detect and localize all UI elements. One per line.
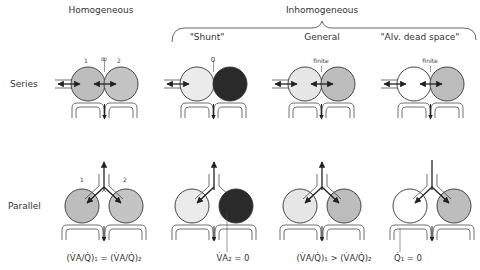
parallel-unit2-label: 2 <box>123 177 127 183</box>
formula-general: (V̇A/Q̇)₁ > (V̇A/Q̇)₂ <box>297 254 372 263</box>
series-shunt <box>164 60 247 119</box>
series-shunt-zero-label: 0 <box>211 57 215 64</box>
formula-shunt: V̇A₂ = 0 <box>217 254 250 263</box>
header-homogeneous: Homogeneous <box>69 6 134 15</box>
series-unit2-label: 2 <box>117 58 121 64</box>
series-alv-dead-space <box>381 66 464 119</box>
header-inhomogeneous: Inhomogeneous <box>286 6 358 15</box>
series-homogeneous <box>55 60 138 119</box>
series-general <box>272 66 355 119</box>
formula-homogeneous: (V̇A/Q̇)₁ = (V̇A/Q̇)₂ <box>67 254 142 263</box>
parallel-alv-dead-space <box>390 160 474 252</box>
row-label-series: Series <box>10 80 38 89</box>
parallel-homogeneous <box>62 162 146 241</box>
parallel-general <box>280 162 364 241</box>
column-label-general: General <box>304 33 339 42</box>
parallel-unit1-label: 1 <box>80 177 84 183</box>
row-label-parallel: Parallel <box>8 202 41 211</box>
series-infinity-label: ∞ <box>100 55 108 64</box>
column-label-shunt: "Shunt" <box>190 33 225 42</box>
series-general-finite-label: finite <box>313 58 328 64</box>
series-unit1-label: 1 <box>84 58 88 64</box>
formula-alv-dead-space: Q̇₁ = 0 <box>394 254 422 263</box>
column-label-alv-dead-space: "Alv. dead space" <box>380 33 459 42</box>
parallel-shunt <box>172 162 256 252</box>
series-alv-finite-label: finite <box>422 58 437 64</box>
